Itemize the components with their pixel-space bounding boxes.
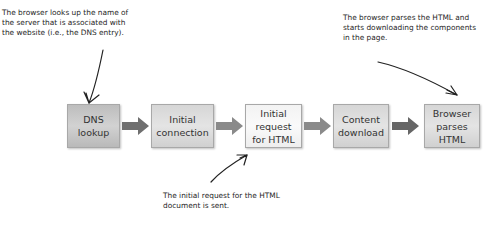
callout-arrows bbox=[0, 0, 491, 225]
callout-arrow-icon bbox=[84, 50, 457, 182]
